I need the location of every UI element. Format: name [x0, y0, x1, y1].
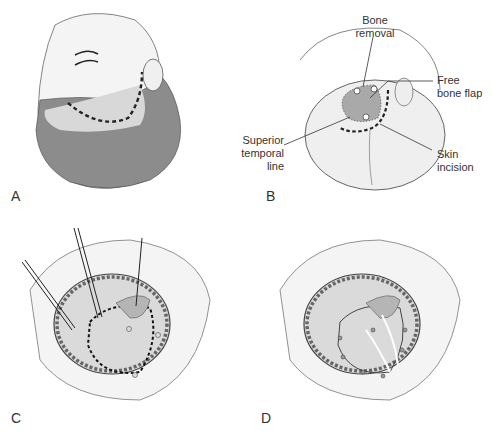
- annotation-free-bone-flap: Free bone flap: [437, 74, 482, 100]
- superior-temporal-line2: temporal: [236, 147, 284, 160]
- panel-label-c: C: [11, 410, 21, 426]
- panel-a-drawing: [36, 14, 181, 189]
- panel-d-drawing: [280, 240, 460, 400]
- annotation-skin-incision: Skin incision: [437, 148, 474, 174]
- superior-temporal-line3: line: [236, 160, 284, 173]
- free-bone-flap-line1: Free: [437, 74, 482, 87]
- bone-removal-line1: Bone: [350, 14, 400, 27]
- annotation-superior-temporal-line: Superior temporal line: [236, 134, 284, 173]
- panel-b-drawing: [284, 28, 445, 190]
- panel-c-drawing: [22, 228, 210, 400]
- panel-label-d: D: [261, 410, 271, 426]
- free-bone-flap-line2: bone flap: [437, 87, 482, 100]
- superior-temporal-line1: Superior: [236, 134, 284, 147]
- surgical-illustration: [0, 0, 493, 440]
- skin-incision-line2: incision: [437, 161, 474, 174]
- bone-removal-line2: removal: [350, 27, 400, 40]
- panel-label-b: B: [266, 188, 275, 204]
- annotation-bone-removal: Bone removal: [350, 14, 400, 40]
- panel-label-a: A: [11, 188, 20, 204]
- skin-incision-line1: Skin: [437, 148, 474, 161]
